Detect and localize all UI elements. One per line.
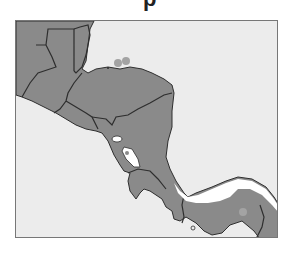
central-america-map — [16, 21, 278, 238]
lake-managua — [112, 136, 122, 142]
bay-islands-marker-2 — [122, 57, 130, 65]
lake-island — [125, 151, 129, 155]
bay-islands-marker-1 — [114, 59, 122, 67]
map-title-fragment: p — [143, 0, 156, 12]
map-frame — [15, 20, 278, 238]
panama-marker — [239, 208, 247, 216]
bay-island-dot — [107, 67, 109, 69]
